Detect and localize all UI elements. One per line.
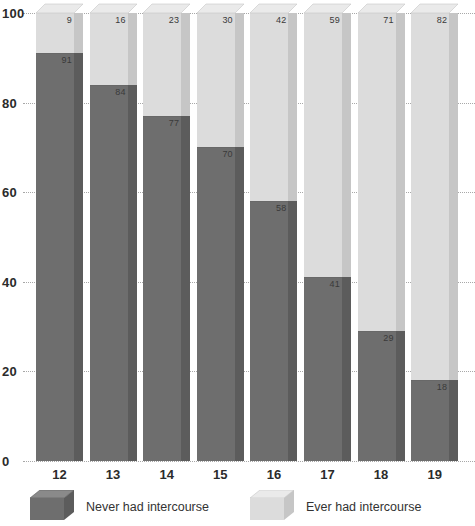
bar-value-label: 18 — [409, 382, 447, 392]
bar-front-face — [411, 13, 449, 380]
legend-label: Never had intercourse — [86, 500, 209, 514]
bar-side-face — [235, 13, 244, 147]
bar-value-label: 29 — [356, 333, 394, 343]
x-axis-tick-label: 13 — [93, 467, 133, 482]
bar-front-face — [90, 85, 128, 461]
x-axis-tick-label: 12 — [40, 467, 80, 482]
bar-segment-ever-had-intercourse[interactable] — [143, 13, 181, 116]
bar-side-face — [449, 380, 458, 461]
bar-value-label: 82 — [409, 15, 447, 25]
bar-segment-never-had-intercourse[interactable] — [90, 85, 128, 461]
y-axis-tick-label: 100 — [2, 6, 32, 21]
bar-side-face — [235, 147, 244, 461]
bar-segment-never-had-intercourse[interactable] — [197, 147, 235, 461]
bar-segment-ever-had-intercourse[interactable] — [411, 13, 449, 380]
bar-front-face — [197, 147, 235, 461]
bar-segment-ever-had-intercourse[interactable] — [358, 13, 396, 331]
bar-value-label: 58 — [248, 203, 286, 213]
bar-group[interactable]: 919 — [36, 4, 83, 461]
bar-side-face — [181, 13, 190, 116]
bar-side-face — [288, 201, 297, 461]
bar-segment-never-had-intercourse[interactable] — [143, 116, 181, 461]
x-axis-tick-label: 15 — [200, 467, 240, 482]
bar-side-face — [74, 13, 83, 53]
bar-value-label: 42 — [248, 15, 286, 25]
bar-value-label: 71 — [356, 15, 394, 25]
bar-group[interactable]: 7723 — [143, 4, 190, 461]
bar-group[interactable]: 7030 — [197, 4, 244, 461]
bar-front-face — [143, 116, 181, 461]
bar-segment-never-had-intercourse[interactable] — [250, 201, 288, 461]
bar-value-label: 16 — [88, 15, 126, 25]
bar-side-face — [396, 331, 405, 461]
y-axis-tick-label: 0 — [2, 454, 32, 469]
bar-group[interactable]: 1882 — [411, 4, 458, 461]
bar-front-face — [411, 380, 449, 461]
bar-group[interactable]: 4159 — [304, 4, 351, 461]
bar-segment-never-had-intercourse[interactable] — [36, 53, 74, 461]
bar-group[interactable]: 5842 — [250, 4, 297, 461]
bar-front-face — [197, 13, 235, 147]
x-axis-tick-label: 14 — [147, 467, 187, 482]
x-axis-tick-label: 18 — [361, 467, 401, 482]
y-axis-tick-label: 40 — [2, 275, 32, 290]
bar-front-face — [304, 13, 342, 277]
bar-value-label: 70 — [195, 149, 233, 159]
dark-cube-icon — [30, 490, 74, 520]
x-axis-tick-label: 17 — [308, 467, 348, 482]
bar-value-label: 9 — [34, 15, 72, 25]
bar-side-face — [181, 116, 190, 461]
bar-front-face — [250, 201, 288, 461]
x-axis-tick-label: 16 — [254, 467, 294, 482]
y-axis-tick-label: 60 — [2, 185, 32, 200]
bar-segment-never-had-intercourse[interactable] — [304, 277, 342, 461]
bar-side-face — [342, 277, 351, 461]
bar-side-face — [128, 85, 137, 461]
gridline-0 — [23, 461, 475, 462]
plot-area: 020406080100 919841677237030584241592971… — [0, 0, 475, 470]
bar-front-face — [304, 277, 342, 461]
bar-value-label: 77 — [141, 118, 179, 128]
bar-segment-never-had-intercourse[interactable] — [411, 380, 449, 461]
bar-front-face — [250, 13, 288, 201]
y-axis-tick-label: 80 — [2, 96, 32, 111]
chart-legend: Never had intercourseEver had intercours… — [0, 486, 475, 526]
light-cube-icon — [250, 490, 294, 520]
x-axis-tick-label: 19 — [415, 467, 455, 482]
bar-side-face — [342, 13, 351, 277]
bar-value-label: 59 — [302, 15, 340, 25]
bar-value-label: 84 — [88, 87, 126, 97]
y-axis-tick-label: 20 — [2, 364, 32, 379]
bar-segment-ever-had-intercourse[interactable] — [304, 13, 342, 277]
bar-value-label: 23 — [141, 15, 179, 25]
bar-value-label: 41 — [302, 279, 340, 289]
bar-front-face — [143, 13, 181, 116]
bar-value-label: 91 — [34, 55, 72, 65]
bar-side-face — [288, 13, 297, 201]
bar-side-face — [449, 13, 458, 380]
bar-front-face — [358, 331, 396, 461]
bar-side-face — [128, 13, 137, 85]
bar-segment-ever-had-intercourse[interactable] — [197, 13, 235, 147]
legend-label: Ever had intercourse — [306, 500, 421, 514]
bar-value-label: 30 — [195, 15, 233, 25]
bar-front-face — [36, 53, 74, 461]
bar-segment-ever-had-intercourse[interactable] — [250, 13, 288, 201]
stacked-bar-chart: 020406080100 919841677237030584241592971… — [0, 0, 475, 526]
bar-front-face — [358, 13, 396, 331]
bar-segment-never-had-intercourse[interactable] — [358, 331, 396, 461]
bar-group[interactable]: 8416 — [90, 4, 137, 461]
bar-side-face — [74, 53, 83, 461]
bar-side-face — [396, 13, 405, 331]
bar-group[interactable]: 2971 — [358, 4, 405, 461]
